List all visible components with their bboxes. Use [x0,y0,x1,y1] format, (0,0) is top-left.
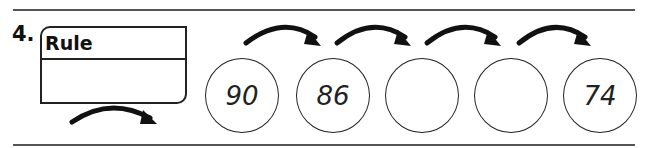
sequence-circle-1[interactable]: 90 [205,58,279,133]
sequence-circle-5[interactable]: 74 [563,58,637,133]
arrow-icon-1 [246,27,321,46]
arrow-icon-3 [427,27,501,46]
arrow-icon-2 [337,27,411,46]
sequence-circle-2[interactable]: 86 [296,58,370,133]
arrow-icon-4 [519,27,591,46]
rule-arrow-icon [72,108,157,124]
sequence-circle-4[interactable] [474,58,548,133]
sequence-circle-3[interactable] [385,58,459,133]
